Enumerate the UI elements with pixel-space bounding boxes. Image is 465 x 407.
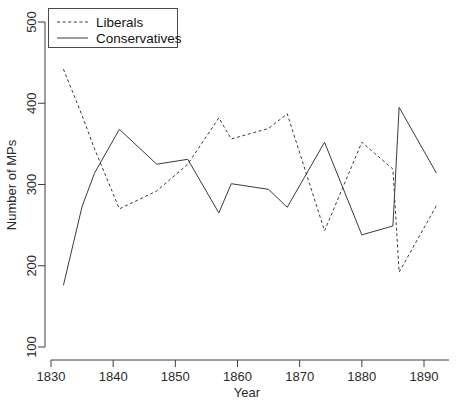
x-tick-label: 1850	[161, 369, 190, 384]
y-tick-label: 100	[24, 336, 39, 358]
legend-label-liberals: Liberals	[96, 15, 144, 30]
y-axis-ticks	[38, 22, 45, 347]
data-series-group	[63, 69, 436, 285]
x-axis: 1830184018501860187018801890	[37, 360, 449, 384]
x-tick-label: 1870	[285, 369, 314, 384]
x-axis-title: Year	[234, 385, 261, 400]
x-tick-label: 1830	[37, 369, 66, 384]
legend-label-conservatives: Conservatives	[96, 31, 182, 46]
x-tick-label: 1860	[223, 369, 252, 384]
y-axis-tick-labels: 100200300400500	[24, 11, 39, 358]
series-line-liberals	[63, 69, 436, 272]
y-tick-label: 400	[24, 92, 39, 114]
x-axis-ticks	[51, 360, 424, 367]
y-tick-label: 300	[24, 174, 39, 196]
y-axis-title: Number of MPs	[4, 139, 19, 230]
y-tick-label: 500	[24, 11, 39, 33]
y-tick-label: 200	[24, 255, 39, 277]
x-tick-label: 1890	[410, 369, 439, 384]
chart-container: 100200300400500 183018401850186018701880…	[0, 0, 465, 407]
legend: Liberals Conservatives	[49, 9, 182, 48]
x-axis-tick-labels: 1830184018501860187018801890	[37, 369, 439, 384]
y-axis: 100200300400500	[24, 11, 46, 358]
mp-count-line-chart: 100200300400500 183018401850186018701880…	[0, 0, 465, 407]
x-tick-label: 1840	[99, 369, 128, 384]
x-tick-label: 1880	[347, 369, 376, 384]
